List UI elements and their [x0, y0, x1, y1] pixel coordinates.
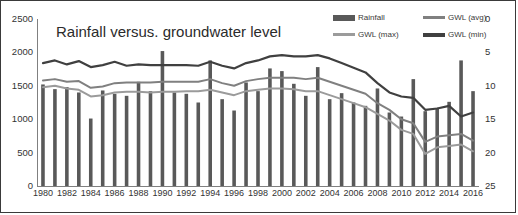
bar-rainfall: [220, 99, 224, 186]
x-axis-tick-label: 1986: [105, 189, 125, 198]
y-axis-left-tick: 2500: [1, 14, 33, 24]
bar-rainfall: [161, 51, 165, 186]
bar-rainfall: [447, 102, 451, 186]
x-axis-labels: 1980198219841986198819901992199419961998…: [37, 189, 479, 203]
x-axis-tick-label: 2012: [415, 189, 435, 198]
x-axis-tick-label: 1988: [128, 189, 148, 198]
y-axis-right-tick: 10: [485, 81, 496, 91]
bar-rainfall: [244, 82, 248, 186]
x-axis-tick-label: 1998: [248, 189, 268, 198]
bar-rainfall: [352, 103, 356, 187]
bar-rainfall: [77, 92, 81, 186]
y-axis-right-tick: 0: [485, 14, 490, 24]
bar-rainfall: [316, 67, 320, 186]
bar-rainfall: [125, 96, 129, 186]
y-axis-right-tick: 15: [485, 114, 496, 124]
bar-rainfall: [268, 68, 272, 186]
y-axis-right-tick: 25: [485, 181, 496, 191]
x-axis-tick-label: 2016: [463, 189, 483, 198]
bar-rainfall: [53, 89, 57, 186]
bar-rainfall: [149, 91, 153, 186]
x-axis-tick-label: 1980: [33, 189, 53, 198]
bar-rainfall: [256, 91, 260, 186]
bar-rainfall: [340, 93, 344, 186]
x-axis-tick-label: 2000: [272, 189, 292, 198]
plot-area: [37, 19, 479, 186]
x-axis-line: [37, 186, 479, 187]
bar-rainfall: [292, 84, 296, 186]
y-axis-left-tick: 1500: [1, 81, 33, 91]
bar-rainfall: [304, 96, 308, 186]
x-axis-tick-label: 1996: [224, 189, 244, 198]
x-axis-tick-label: 1994: [200, 189, 220, 198]
bar-rainfall: [196, 103, 200, 187]
bar-rainfall: [232, 111, 236, 186]
y-axis-left-tick: 500: [1, 148, 33, 158]
chart-container: Rainfall versus. groundwater level Rainf…: [0, 0, 516, 213]
x-axis-tick-label: 1984: [81, 189, 101, 198]
y-axis-left-tick: 0: [1, 181, 33, 191]
x-axis-tick-label: 1990: [152, 189, 172, 198]
bar-rainfall: [41, 84, 45, 186]
y-axis-left-tick: 1000: [1, 114, 33, 124]
bar-rainfall: [173, 92, 177, 186]
bar-rainfall: [89, 119, 93, 186]
bar-rainfall: [101, 90, 105, 186]
bar-rainfall: [364, 106, 368, 186]
x-axis-tick-label: 2006: [344, 189, 364, 198]
bar-rainfall: [185, 94, 189, 186]
bar-rainfall: [423, 111, 427, 186]
bar-rainfall: [65, 87, 69, 186]
y-axis-left-tick: 2000: [1, 47, 33, 57]
bar-rainfall: [400, 117, 404, 186]
x-axis-tick-label: 1982: [57, 189, 77, 198]
x-axis-tick-label: 2014: [439, 189, 459, 198]
bar-rainfall: [113, 94, 117, 186]
chart-svg: [37, 19, 479, 186]
x-axis-tick-label: 2010: [391, 189, 411, 198]
bar-rainfall: [471, 91, 475, 186]
y-axis-right-tick: 20: [485, 148, 496, 158]
bar-rainfall: [388, 113, 392, 186]
bar-rainfall: [328, 99, 332, 186]
x-axis-tick-label: 2004: [320, 189, 340, 198]
x-axis-tick-label: 2008: [367, 189, 387, 198]
bar-rainfall: [137, 82, 141, 186]
x-axis-tick-label: 1992: [176, 189, 196, 198]
bar-rainfall: [459, 60, 463, 186]
x-axis-tick-label: 2002: [296, 189, 316, 198]
y-axis-right-tick: 5: [485, 47, 490, 57]
